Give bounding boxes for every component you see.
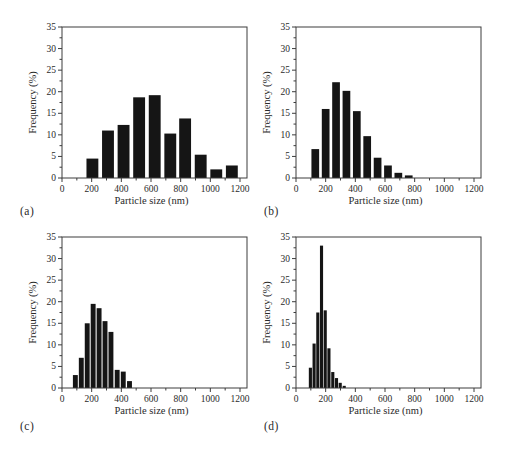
panel-label-d: (d): [264, 420, 279, 432]
panel-label-c: (c): [20, 420, 34, 432]
x-tick-label: 200: [85, 184, 100, 194]
x-tick-label: 400: [348, 394, 363, 404]
histogram-svg: 05101520253035020040060080010001200Parti…: [0, 0, 256, 226]
y-tick-label: 15: [47, 108, 57, 118]
y-tick-label: 5: [51, 361, 56, 371]
y-tick-label: 20: [281, 297, 291, 307]
y-tick-label: 20: [281, 87, 291, 97]
histogram-bar: [322, 109, 330, 178]
histogram-bar: [316, 313, 319, 389]
y-tick-label: 10: [47, 130, 57, 140]
histogram-bar: [384, 165, 392, 178]
y-tick-label: 15: [281, 318, 291, 328]
x-tick-label: 600: [144, 394, 159, 404]
histogram-bar: [311, 149, 319, 178]
y-axis-label: Frequency (%): [27, 281, 39, 344]
y-tick-label: 30: [281, 44, 291, 54]
panel-label-a: (a): [20, 205, 34, 217]
panel-label-b: (b): [264, 205, 279, 217]
histogram-d: 05101520253035020040060080010001200Parti…: [256, 226, 513, 452]
y-tick-label: 35: [47, 232, 57, 242]
figure: 05101520253035020040060080010001200Parti…: [0, 0, 513, 452]
histogram-bar: [374, 158, 382, 178]
x-axis-label: Particle size (nm): [114, 195, 189, 207]
x-tick-label: 1000: [201, 394, 220, 404]
x-tick-label: 0: [60, 394, 65, 404]
histogram-svg: 05101520253035020040060080010001200Parti…: [0, 226, 256, 452]
y-tick-label: 10: [47, 340, 57, 350]
histogram-bar: [327, 348, 330, 388]
y-tick-label: 10: [281, 340, 291, 350]
histogram-bar: [121, 372, 126, 388]
histogram-svg: 05101520253035020040060080010001200Parti…: [256, 226, 513, 452]
x-axis-label: Particle size (nm): [348, 195, 423, 207]
x-tick-label: 1000: [201, 184, 220, 194]
y-tick-label: 0: [51, 173, 56, 183]
y-tick-label: 35: [47, 22, 57, 32]
histogram-svg: 05101520253035020040060080010001200Parti…: [256, 0, 513, 226]
histogram-bar: [210, 169, 222, 178]
histogram-bar: [335, 378, 338, 388]
histogram-bar: [363, 136, 371, 178]
histogram-bar: [118, 125, 130, 178]
histogram-bar: [324, 310, 327, 388]
y-tick-label: 5: [285, 151, 290, 161]
y-tick-label: 0: [285, 173, 290, 183]
histogram-bar: [127, 381, 132, 388]
histogram-bar: [195, 155, 207, 178]
panel-d: 05101520253035020040060080010001200Parti…: [256, 226, 513, 452]
histogram-bar: [109, 332, 114, 388]
histogram-bar: [91, 304, 96, 388]
histogram-bar: [332, 82, 340, 178]
y-tick-label: 25: [281, 65, 291, 75]
histogram-bar: [86, 159, 98, 178]
x-tick-label: 800: [174, 394, 189, 404]
y-tick-label: 20: [47, 297, 57, 307]
histogram-bar: [164, 134, 176, 178]
y-tick-label: 25: [47, 65, 57, 75]
histogram-bar: [313, 344, 316, 388]
histogram-bar: [339, 383, 342, 388]
histogram-bar: [73, 375, 78, 388]
histogram-bar: [97, 308, 102, 388]
histogram-bar: [331, 372, 334, 388]
panel-a: 05101520253035020040060080010001200Parti…: [0, 0, 256, 226]
y-tick-label: 25: [47, 275, 57, 285]
histogram-bar: [226, 165, 238, 178]
y-tick-label: 0: [51, 383, 56, 393]
y-tick-label: 30: [47, 254, 57, 264]
panel-c: 05101520253035020040060080010001200Parti…: [0, 226, 256, 452]
y-tick-label: 5: [51, 151, 56, 161]
x-tick-label: 1200: [465, 394, 484, 404]
y-tick-label: 35: [281, 232, 291, 242]
x-tick-label: 1200: [231, 394, 250, 404]
histogram-bar: [149, 95, 161, 178]
x-tick-label: 0: [294, 184, 299, 194]
y-axis-label: Frequency (%): [27, 71, 39, 134]
x-tick-label: 1000: [435, 184, 454, 194]
x-tick-label: 200: [85, 394, 100, 404]
histogram-a: 05101520253035020040060080010001200Parti…: [0, 0, 256, 230]
histogram-bar: [115, 370, 120, 388]
histogram-c: 05101520253035020040060080010001200Parti…: [0, 226, 256, 452]
y-tick-label: 30: [281, 254, 291, 264]
histogram-bar: [394, 173, 402, 178]
y-tick-label: 0: [285, 383, 290, 393]
y-axis-label: Frequency (%): [261, 281, 273, 344]
x-tick-label: 1000: [435, 394, 454, 404]
x-tick-label: 600: [144, 184, 159, 194]
x-tick-label: 600: [378, 184, 393, 194]
x-tick-label: 800: [408, 394, 423, 404]
histogram-bar: [179, 118, 191, 178]
x-tick-label: 0: [294, 394, 299, 404]
panel-b: 05101520253035020040060080010001200Parti…: [256, 0, 513, 226]
x-axis-label: Particle size (nm): [114, 405, 189, 417]
histogram-b: 05101520253035020040060080010001200Parti…: [256, 0, 513, 230]
histogram-bar: [353, 111, 361, 178]
x-tick-label: 0: [60, 184, 65, 194]
histogram-bar: [320, 246, 323, 388]
axis-frame: [62, 237, 247, 388]
y-tick-label: 10: [281, 130, 291, 140]
x-tick-label: 800: [408, 184, 423, 194]
histogram-bar: [309, 368, 312, 388]
